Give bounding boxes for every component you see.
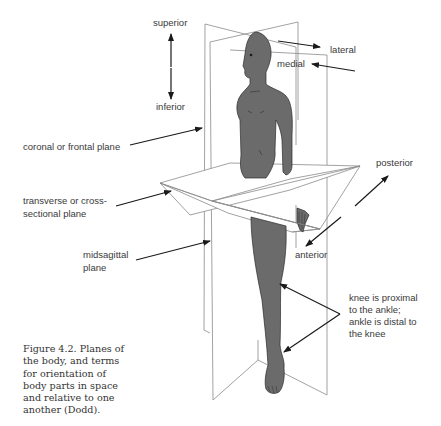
transverse-plane-label-line1: transverse or cross- (23, 195, 107, 206)
proximal-distal-label-line3: ankle is distal to (349, 316, 417, 327)
anterior-arrow (306, 217, 341, 246)
transverse-plane-label-line2: sectional plane (23, 208, 86, 219)
figure-caption: Figure 4.2. Planes of the body, and term… (23, 343, 133, 417)
posterior-arrow (355, 176, 388, 206)
midsagittal-plane-label-line2: plane (83, 262, 106, 273)
proximal-distal-label-line4: the knee (349, 328, 385, 339)
coronal-plane-label: coronal or frontal plane (23, 141, 120, 152)
anterior-label: anterior (295, 249, 327, 260)
inferior-label: inferior (156, 101, 185, 112)
midsagittal-pointer-arrow (136, 241, 210, 260)
medial-label: medial (277, 58, 305, 69)
superior-label: superior (153, 17, 187, 28)
ankle-pointer-arrow (284, 314, 340, 352)
posterior-label: posterior (376, 157, 413, 168)
midsagittal-plane-label-line1: midsagittal (83, 249, 128, 260)
coronal-pointer-arrow (130, 128, 202, 145)
transverse-pointer-arrow (116, 191, 171, 206)
lateral-label: lateral (330, 44, 356, 55)
knee-pointer-arrow (280, 284, 340, 314)
proximal-distal-label-line1: knee is proximal (349, 292, 418, 303)
proximal-distal-label-line2: to the ankle; (349, 304, 401, 315)
medial-arrow (312, 64, 355, 71)
